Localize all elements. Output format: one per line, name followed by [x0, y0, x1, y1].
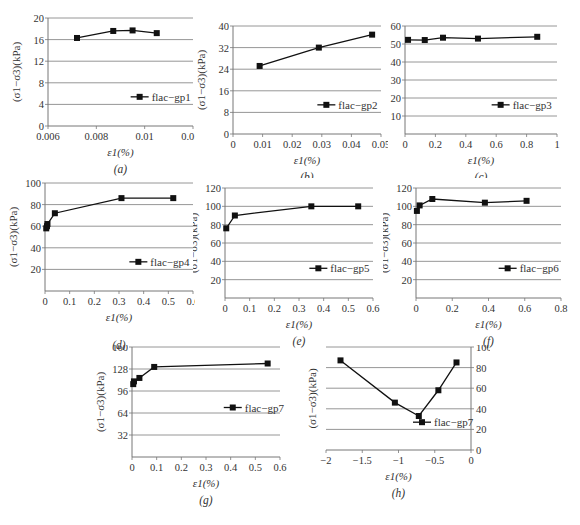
- data-point-marker: [136, 375, 142, 381]
- chart-panel-d: 2040608010000.10.20.30.40.50.6(σ1−σ3)(kP…: [0, 178, 195, 350]
- chart-svg: 0481216200.0060.0080.010.012(σ1−σ3)(kPa)…: [0, 8, 195, 178]
- legend: flac−gp4: [129, 256, 190, 268]
- x-tick-label: 0.4: [137, 296, 151, 307]
- y-tick-label: 32: [118, 430, 129, 441]
- x-tick-label: 0.5: [249, 462, 262, 473]
- x-tick-label: 0.5: [162, 296, 175, 307]
- y-tick-label: 40: [211, 256, 222, 267]
- chart-svg: 020406080100−2−1.5−1−0.50(σ1−σ3)(kPa)ε1(…: [290, 345, 490, 520]
- y-tick-label: 30: [391, 75, 402, 86]
- y-tick-label: 60: [391, 21, 402, 32]
- y-tick-label: 20: [402, 275, 413, 286]
- x-tick-label: 0.2: [446, 303, 459, 314]
- x-tick-label: 0: [402, 139, 407, 150]
- data-point-marker: [74, 35, 80, 41]
- chart-panel-c: 10203040506000.20.40.60.81(σ1−σ3)(kPa)ε1…: [383, 8, 578, 178]
- y-tick-label: 8: [39, 78, 44, 89]
- chart-svg: 32649612816000.10.20.30.40.50.6(σ1−σ3)(k…: [95, 345, 295, 520]
- legend-label: flac−gp4: [150, 256, 190, 268]
- y-tick-label: 40: [31, 243, 42, 254]
- y-axis-label: (σ1−σ3)(kPa): [7, 207, 20, 268]
- data-point-marker: [524, 198, 530, 204]
- x-tick-label: 0.5: [342, 303, 355, 314]
- x-tick-label: 1: [554, 139, 559, 150]
- x-tick-label: 0.4: [224, 462, 238, 473]
- legend-label: flac−gp6: [520, 262, 560, 274]
- legend: flac−gp3: [492, 99, 553, 111]
- y-tick-label: 24: [219, 64, 230, 75]
- x-tick-label: 0: [222, 303, 227, 314]
- y-tick-label: 60: [402, 238, 413, 249]
- x-tick-label: 0.006: [36, 131, 60, 142]
- x-axis-label: ε1(%): [106, 311, 133, 324]
- x-tick-label: 0.8: [554, 303, 567, 314]
- chart-panel-b: 081624324000.010.020.030.040.05(σ1−σ3)(k…: [193, 8, 388, 178]
- chart-svg: 2040608010012000.10.20.30.40.50.6(σ1−σ3)…: [193, 178, 388, 350]
- y-tick-label: 20: [34, 13, 45, 24]
- legend: flac−gp7: [413, 416, 474, 428]
- y-tick-label: 12: [34, 56, 45, 67]
- legend-label: flac−gp7: [245, 402, 285, 414]
- y-tick-label: 0: [476, 445, 481, 456]
- x-axis-label: ε1(%): [385, 470, 412, 483]
- y-tick-label: 16: [34, 35, 45, 46]
- x-tick-label: 0.6: [490, 139, 503, 150]
- x-tick-label: 0: [42, 296, 47, 307]
- x-tick-label: −2: [320, 455, 331, 466]
- x-tick-label: 0.3: [292, 303, 305, 314]
- data-point-marker: [392, 400, 398, 406]
- y-tick-label: 60: [211, 238, 222, 249]
- x-tick-label: 0.01: [135, 131, 153, 142]
- legend-label: flac−gp5: [330, 262, 370, 274]
- x-tick-label: −1.5: [353, 455, 372, 466]
- data-point-marker: [316, 45, 322, 51]
- x-tick-label: 0.04: [342, 139, 361, 150]
- y-tick-label: 64: [118, 408, 129, 419]
- y-tick-label: 40: [391, 57, 402, 68]
- x-tick-label: 0.2: [268, 303, 281, 314]
- chart-panel-a: 0481216200.0060.0080.010.012(σ1−σ3)(kPa)…: [0, 8, 195, 178]
- legend-marker-icon: [419, 419, 425, 425]
- x-axis-label: ε1(%): [193, 477, 220, 490]
- chart-panel-h: 020406080100−2−1.5−1−0.50(σ1−σ3)(kPa)ε1(…: [290, 345, 490, 520]
- x-tick-label: 0.2: [175, 462, 188, 473]
- y-axis-label: (σ1−σ3)(kPa): [383, 213, 391, 274]
- legend-label: flac−gp2: [338, 99, 377, 111]
- data-point-marker: [417, 202, 423, 208]
- data-point-marker: [355, 203, 361, 209]
- x-axis-label: ε1(%): [286, 318, 313, 331]
- x-tick-label: 0: [413, 303, 418, 314]
- x-tick-label: 0.3: [199, 462, 212, 473]
- data-point-marker: [232, 213, 238, 219]
- x-tick-label: 0.2: [88, 296, 101, 307]
- y-tick-label: 128: [112, 364, 128, 375]
- x-tick-label: 0: [468, 455, 473, 466]
- data-point-marker: [265, 361, 271, 367]
- data-point-marker: [52, 210, 58, 216]
- x-tick-label: 0.6: [366, 303, 379, 314]
- y-tick-label: 32: [219, 43, 230, 54]
- data-point-marker: [170, 195, 176, 201]
- legend: flac−gp7: [224, 402, 285, 414]
- series-line: [46, 198, 173, 228]
- x-tick-label: 0.1: [243, 303, 256, 314]
- data-point-marker: [429, 196, 435, 202]
- legend: flac−gp5: [309, 262, 370, 274]
- data-point-marker: [454, 359, 460, 365]
- y-tick-label: 100: [25, 178, 41, 189]
- data-point-marker: [338, 357, 344, 363]
- y-tick-label: 20: [211, 275, 222, 286]
- x-tick-label: 0.2: [429, 139, 442, 150]
- y-tick-label: 80: [476, 363, 487, 374]
- y-tick-label: 20: [391, 93, 402, 104]
- x-axis-label: ε1(%): [107, 146, 134, 159]
- panel-caption: (b): [300, 171, 314, 178]
- y-tick-label: 40: [219, 21, 230, 32]
- data-point-marker: [44, 221, 50, 227]
- y-tick-label: 20: [31, 264, 42, 275]
- y-axis-label: (σ1−σ3)(kPa): [306, 368, 319, 429]
- y-axis-label: (σ1−σ3)(kPa): [193, 213, 200, 274]
- data-point-marker: [118, 195, 124, 201]
- y-tick-label: 100: [205, 201, 221, 212]
- chart-svg: 2040608010012000.20.40.60.8(σ1−σ3)(kPa)ε…: [383, 178, 578, 350]
